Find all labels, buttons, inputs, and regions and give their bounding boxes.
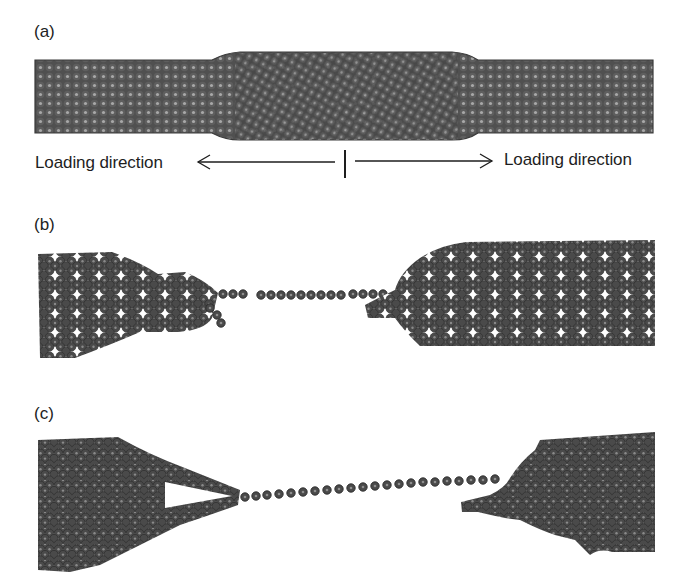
panel-a-nanowire [35, 52, 653, 140]
figure-canvas [0, 0, 691, 586]
monatomic-chain-c [241, 475, 499, 501]
arrow-right-icon [355, 154, 492, 168]
arrow-left-icon [198, 155, 335, 169]
loading-arrows [198, 150, 492, 178]
panel-b-fracture [38, 240, 655, 358]
monatomic-chain-b [219, 290, 387, 299]
panel-c-fracture [38, 432, 655, 572]
